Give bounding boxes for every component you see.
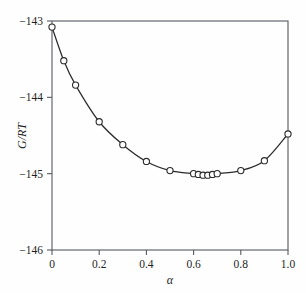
- y-axis-ticks: [47, 21, 52, 250]
- data-point-marker: [96, 119, 102, 125]
- data-point-marker: [120, 142, 126, 148]
- x-axis-tick-labels: 00.20.40.60.81.0: [49, 258, 295, 270]
- gibbs-energy-plot: −143−144−145−146 00.20.40.60.81.0 G/RT α: [0, 0, 306, 293]
- y-tick-label: −144: [19, 91, 43, 103]
- plot-frame: [52, 21, 288, 250]
- data-point-marker: [214, 171, 220, 177]
- series-line-gibbs: [52, 27, 288, 175]
- x-tick-label: 1.0: [281, 258, 296, 270]
- data-point-marker: [49, 24, 55, 30]
- data-point-marker: [143, 158, 149, 164]
- data-point-marker: [261, 158, 267, 164]
- data-point-marker: [238, 168, 244, 174]
- data-point-marker: [167, 168, 173, 174]
- x-axis-title: α: [167, 273, 174, 287]
- y-tick-label: −145: [19, 168, 43, 180]
- x-tick-label: 0.6: [186, 258, 201, 270]
- x-axis-ticks: [52, 250, 288, 255]
- y-tick-label: −146: [19, 244, 43, 256]
- x-tick-label: 0.8: [234, 258, 249, 270]
- data-point-marker: [73, 82, 79, 88]
- y-tick-label: −143: [19, 15, 43, 27]
- data-point-marker: [285, 131, 291, 137]
- data-point-marker: [61, 58, 67, 64]
- x-tick-label: 0.4: [139, 258, 154, 270]
- x-tick-label: 0: [49, 258, 55, 270]
- x-tick-label: 0.2: [92, 258, 107, 270]
- y-axis-title: G/RT: [15, 122, 29, 149]
- chart-figure: −143−144−145−146 00.20.40.60.81.0 G/RT α: [0, 0, 306, 293]
